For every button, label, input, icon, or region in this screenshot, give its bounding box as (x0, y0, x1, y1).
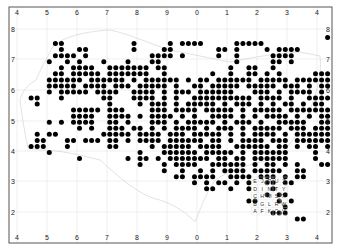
occurrence-dot (198, 144, 203, 149)
occurrence-dot (283, 114, 288, 119)
occurrence-dot (168, 144, 173, 149)
occurrence-dot (65, 144, 70, 149)
occurrence-dot (222, 47, 227, 52)
x-tick-label: 2 (255, 9, 259, 16)
occurrence-dot (162, 71, 167, 76)
occurrence-dot (107, 71, 112, 76)
occurrence-dot (180, 53, 185, 58)
occurrence-dot (277, 120, 282, 125)
y-axis-right-labels: 8765432 (326, 26, 330, 216)
occurrence-dot (277, 96, 282, 101)
occurrence-dot (240, 162, 245, 167)
occurrence-dot (313, 77, 318, 82)
occurrence-dot (107, 102, 112, 107)
occurrence-dot (277, 108, 282, 113)
occurrence-dot (174, 126, 179, 131)
occurrence-dot (59, 83, 64, 88)
occurrence-dot (83, 108, 88, 113)
occurrence-dot (132, 41, 137, 46)
occurrence-dot (325, 96, 330, 101)
occurrence-dot (113, 114, 118, 119)
occurrence-dot (271, 168, 276, 173)
occurrence-dot (186, 108, 191, 113)
occurrence-dot (71, 53, 76, 58)
occurrence-dot (77, 156, 82, 161)
occurrence-dot (162, 83, 167, 88)
occurrence-dot (222, 96, 227, 101)
occurrence-dot (234, 47, 239, 52)
occurrence-dot (132, 96, 137, 101)
occurrence-dot (77, 120, 82, 125)
occurrence-dot (210, 108, 215, 113)
occurrence-dot (265, 96, 270, 101)
occurrence-dot (259, 138, 264, 143)
occurrence-dot (265, 168, 270, 173)
occurrence-dot (319, 71, 324, 76)
occurrence-dot (198, 120, 203, 125)
occurrence-dot (271, 53, 276, 58)
occurrence-dot (162, 65, 167, 70)
occurrence-dot (119, 83, 124, 88)
occurrence-dot (150, 77, 155, 82)
occurrence-dot (77, 71, 82, 76)
occurrence-dot (216, 150, 221, 155)
occurrence-dot (259, 90, 264, 95)
occurrence-dot (77, 47, 82, 52)
occurrence-dot (126, 120, 131, 125)
occurrence-dot (156, 59, 161, 64)
occurrence-dot (204, 108, 209, 113)
occurrence-dot (89, 114, 94, 119)
occurrence-dot (204, 90, 209, 95)
distribution-map: 45678901234 45678901234 8765432 8765432 … (0, 0, 340, 250)
occurrence-dot (126, 132, 131, 137)
occurrence-dot (216, 96, 221, 101)
y-tick-label: 6 (11, 87, 15, 94)
occurrence-dot (271, 150, 276, 155)
occurrence-dot (228, 71, 233, 76)
occurrence-dot (95, 108, 100, 113)
occurrence-dot (222, 108, 227, 113)
occurrence-dot (29, 144, 34, 149)
occurrence-dot (113, 71, 118, 76)
occurrence-dot (240, 120, 245, 125)
occurrence-dot (162, 77, 167, 82)
occurrence-dot (126, 156, 131, 161)
occurrence-dot (325, 77, 330, 82)
key-letter: M (267, 193, 271, 199)
occurrence-dot (228, 96, 233, 101)
occurrence-dot (107, 144, 112, 149)
occurrence-dot (132, 47, 137, 52)
occurrence-dot (156, 102, 161, 107)
occurrence-dot (150, 144, 155, 149)
key-letter: Q (275, 208, 279, 214)
occurrence-dot (301, 108, 306, 113)
occurrence-dot (180, 168, 185, 173)
x-tick-label: 7 (105, 234, 109, 241)
occurrence-dot (283, 102, 288, 107)
occurrence-dot (180, 108, 185, 113)
occurrence-dot (246, 65, 251, 70)
occurrence-dot (283, 83, 288, 88)
occurrence-dot (156, 77, 161, 82)
occurrence-dot (174, 162, 179, 167)
occurrence-dot (132, 126, 137, 131)
occurrence-dot (307, 132, 312, 137)
occurrence-dot (319, 96, 324, 101)
x-tick-label: 7 (105, 9, 109, 16)
occurrence-dot (168, 132, 173, 137)
occurrence-dot (83, 83, 88, 88)
occurrence-dot (240, 150, 245, 155)
occurrence-dot (180, 90, 185, 95)
occurrence-dot (277, 114, 282, 119)
occurrence-dot (319, 120, 324, 125)
occurrence-dot (186, 162, 191, 167)
occurrence-dot (138, 65, 143, 70)
key-letter: J (261, 178, 264, 184)
occurrence-dot (65, 138, 70, 143)
occurrence-dot (228, 162, 233, 167)
y-tick-label: 8 (11, 26, 15, 33)
occurrence-dot (95, 138, 100, 143)
occurrence-dot (83, 53, 88, 58)
occurrence-dot (150, 90, 155, 95)
occurrence-dot (319, 126, 324, 131)
